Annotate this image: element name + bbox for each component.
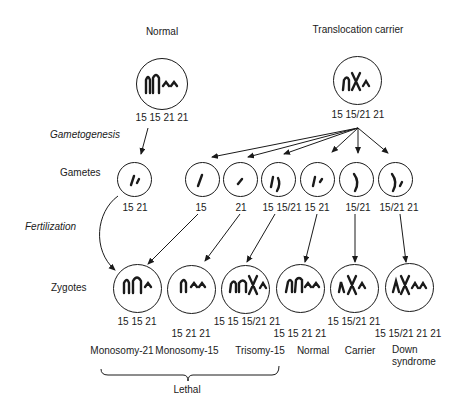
fertilization-label: Fertilization (25, 221, 76, 233)
gamete-cell (117, 162, 152, 197)
zygote-outcome: Trisomy-15 (235, 345, 285, 357)
normal-parent-title: Normal (146, 26, 178, 38)
gamete-cell (300, 162, 335, 197)
zygote-outcome: Carrier (345, 345, 376, 357)
zygote-outcome: Monosomy-21 (90, 345, 153, 357)
zygote-cell (167, 265, 216, 314)
zygote-karyotype: 15 15 21 21 (274, 328, 327, 340)
zygote-cell (276, 264, 325, 313)
normal-parent-karyotype: 15 15 21 21 (136, 112, 189, 124)
lethal-label: Lethal (173, 384, 200, 396)
zygote-cell (221, 265, 270, 314)
gametes-label: Gametes (60, 167, 101, 179)
normal-parent-cell (136, 58, 188, 110)
zygote-cell (330, 264, 379, 313)
gamete-karyotype: 15/21 (345, 202, 370, 214)
zygote-outcome: syndrome (392, 356, 436, 368)
zygote-outcome: Down (392, 344, 418, 356)
carrier-parent-cell (333, 56, 382, 105)
gamete-karyotype: 21 (235, 202, 246, 214)
gametogenesis-label: Gametogenesis (50, 129, 120, 141)
zygote-karyotype: 15 15 15/21 21 (214, 316, 281, 328)
gamete-karyotype: 15 (195, 202, 206, 214)
gamete-karyotype: 15/21 21 (380, 202, 419, 214)
gamete-karyotype: 15 21 (304, 202, 329, 214)
zygote-karyotype: 15 15/21 21 21 (375, 328, 442, 340)
lethal-bracket (101, 366, 279, 381)
carrier-parent-karyotype: 15 15/21 21 (332, 109, 385, 121)
zygote-karyotype: 15 15 21 (118, 316, 157, 328)
gamete-cell (223, 162, 258, 197)
carrier-parent-title: Translocation carrier (313, 24, 404, 36)
zygote-karyotype: 15 21 21 (172, 328, 211, 340)
gamete-cell (185, 162, 220, 197)
zygote-outcome: Monosomy-15 (155, 345, 218, 357)
zygote-outcome: Normal (297, 345, 329, 357)
arrow-normal-gamete (141, 128, 148, 154)
gamete-cell (261, 162, 296, 197)
gamete-karyotype: 15 21 (122, 202, 147, 214)
gamete-cell (339, 162, 374, 197)
zygote-karyotype: 15 15/21 21 (328, 316, 381, 328)
gamete-karyotype: 15 15/21 (263, 202, 302, 214)
zygote-cell (385, 263, 434, 312)
zygotes-label: Zygotes (51, 282, 87, 294)
zygote-cell (113, 264, 162, 313)
gamete-cell (378, 162, 413, 197)
